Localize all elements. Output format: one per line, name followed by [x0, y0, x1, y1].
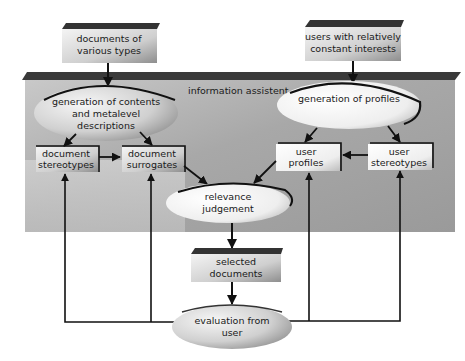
svg-text:document: document: [42, 148, 90, 159]
svg-text:surrogates: surrogates: [127, 159, 178, 170]
input-documents-box: documents of various types: [62, 23, 160, 63]
svg-text:user: user: [222, 327, 243, 338]
panel-title: information assistent: [188, 85, 289, 96]
store-user-stereotypes: user stereotypes: [368, 143, 433, 170]
store-selected-documents: selected documents: [191, 248, 283, 282]
svg-text:selected: selected: [216, 256, 256, 267]
svg-text:documents of: documents of: [76, 33, 142, 44]
svg-text:relevance: relevance: [205, 191, 252, 202]
store-document-surrogates: document surrogates: [122, 146, 185, 172]
store-document-stereotypes: document stereotypes: [36, 146, 99, 172]
svg-text:stereotypes: stereotypes: [371, 157, 427, 168]
svg-text:constant interests: constant interests: [310, 43, 396, 54]
svg-text:user: user: [296, 146, 317, 157]
store-user-profiles: user profiles: [276, 143, 341, 171]
svg-text:generation of profiles: generation of profiles: [298, 93, 400, 104]
svg-text:generation of contents: generation of contents: [52, 96, 160, 107]
process-generation-profiles: generation of profiles: [277, 81, 421, 129]
panel-top-strip: [22, 72, 461, 80]
svg-text:user: user: [389, 146, 410, 157]
process-evaluation-from-user: evaluation from user: [172, 305, 292, 349]
process-generation-contents: generation of contents and metalevel des…: [34, 85, 178, 141]
svg-text:descriptions: descriptions: [77, 120, 135, 131]
svg-text:judgement: judgement: [201, 203, 254, 214]
input-users-box: users with relatively constant interests: [305, 20, 404, 61]
svg-text:document: document: [128, 148, 176, 159]
svg-text:and metalevel: and metalevel: [72, 108, 140, 119]
svg-text:documents: documents: [210, 268, 263, 279]
svg-text:users with relatively: users with relatively: [305, 31, 401, 42]
svg-text:stereotypes: stereotypes: [38, 159, 94, 170]
information-assistant-diagram: information assistent documents of vario…: [0, 0, 465, 361]
svg-text:evaluation from: evaluation from: [194, 315, 269, 326]
svg-text:various types: various types: [77, 45, 141, 56]
svg-text:profiles: profiles: [289, 157, 324, 168]
